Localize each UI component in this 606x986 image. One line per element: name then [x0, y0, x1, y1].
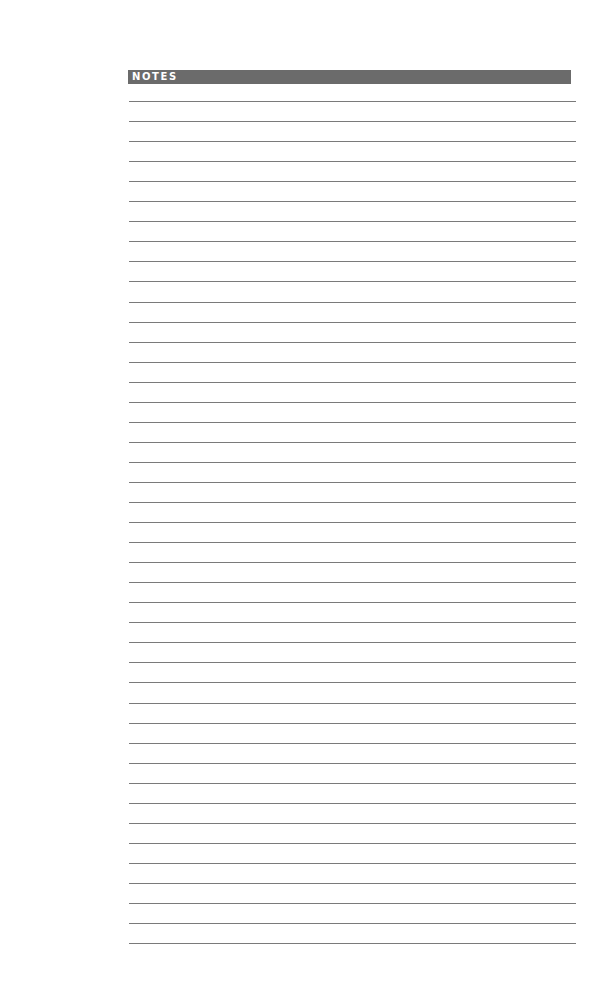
ruled-line — [129, 261, 576, 262]
ruled-line — [129, 723, 576, 724]
ruled-line — [129, 462, 576, 463]
ruled-line — [129, 281, 576, 282]
ruled-line — [129, 642, 576, 643]
ruled-line — [129, 883, 576, 884]
ruled-line — [129, 201, 576, 202]
ruled-line — [129, 241, 576, 242]
ruled-line — [129, 582, 576, 583]
ruled-line — [129, 703, 576, 704]
ruled-line — [129, 161, 576, 162]
ruled-line — [129, 923, 576, 924]
ruled-line — [129, 562, 576, 563]
ruled-line — [129, 943, 576, 944]
ruled-line — [129, 221, 576, 222]
ruled-line — [129, 482, 576, 483]
ruled-line — [129, 682, 576, 683]
ruled-line — [129, 302, 576, 303]
ruled-line — [129, 502, 576, 503]
ruled-line — [129, 362, 576, 363]
ruled-line — [129, 823, 576, 824]
ruled-line — [129, 783, 576, 784]
notes-page: NOTES — [0, 0, 606, 986]
ruled-line — [129, 402, 576, 403]
notes-header-bar: NOTES — [128, 70, 571, 84]
ruled-line — [129, 442, 576, 443]
ruled-line — [129, 342, 576, 343]
ruled-line — [129, 863, 576, 864]
ruled-line — [129, 662, 576, 663]
ruled-line — [129, 121, 576, 122]
ruled-line — [129, 422, 576, 423]
ruled-line — [129, 843, 576, 844]
ruled-line — [129, 181, 576, 182]
ruled-line — [129, 743, 576, 744]
ruled-line — [129, 803, 576, 804]
ruled-line — [129, 322, 576, 323]
ruled-line — [129, 522, 576, 523]
ruled-line — [129, 622, 576, 623]
ruled-line — [129, 101, 576, 102]
ruled-line — [129, 542, 576, 543]
ruled-line — [129, 382, 576, 383]
ruled-line — [129, 763, 576, 764]
ruled-line — [129, 903, 576, 904]
ruled-line — [129, 602, 576, 603]
notes-title: NOTES — [128, 70, 178, 84]
ruled-line — [129, 141, 576, 142]
